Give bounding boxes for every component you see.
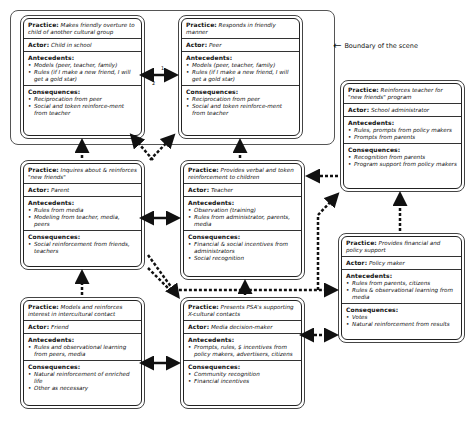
svg-text:1: 1 — [161, 65, 164, 71]
arrows-layer: 1 2 — [0, 0, 473, 428]
svg-text:2: 2 — [152, 80, 155, 86]
